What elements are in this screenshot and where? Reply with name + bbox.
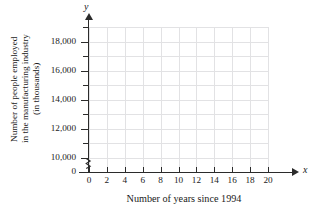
y-axis-tick-label: 14,000 (36, 94, 78, 104)
x-axis-tick (89, 167, 90, 172)
y-axis-tick-label-text: 14,000 (36, 94, 76, 104)
x-axis-tick (196, 167, 197, 172)
y-axis-tick-label: 10,000 (36, 152, 78, 162)
gridline-horizontal (89, 71, 268, 72)
y-axis-origin-label-text: 0 (36, 166, 76, 176)
x-axis-arrow-icon (292, 168, 299, 176)
y-axis-tick-label-text: 10,000 (36, 152, 76, 162)
y-axis-tick-minor (83, 56, 89, 57)
gridline-horizontal (89, 56, 268, 57)
y-axis-tick-minor (83, 114, 89, 115)
y-axis-tick-minor (83, 85, 89, 86)
x-axis-tick (250, 167, 251, 172)
x-axis-tick (125, 167, 126, 172)
y-axis-tick-label: 12,000 (36, 123, 78, 133)
y-axis-origin-label: 0 (36, 166, 78, 176)
gridline-horizontal (89, 114, 268, 115)
x-axis-line (79, 172, 293, 173)
x-axis-tick (268, 167, 269, 172)
gridline-horizontal (89, 100, 268, 101)
y-axis-tick-label-text: 16,000 (36, 65, 76, 75)
gridline-horizontal (89, 85, 268, 86)
plot-area (89, 27, 268, 172)
y-axis-tick-label-text: 18,000 (36, 36, 76, 46)
gridline-vertical (268, 27, 269, 172)
y-axis-tick-major (81, 42, 89, 43)
x-axis-tick (161, 167, 162, 172)
y-axis-tick-minor (83, 143, 89, 144)
x-axis-tick (179, 167, 180, 172)
x-axis-tick (143, 167, 144, 172)
x-axis-symbol: x (303, 164, 307, 175)
y-axis-tick-major (81, 71, 89, 72)
gridline-horizontal (89, 158, 268, 159)
x-axis-tick (107, 167, 108, 172)
y-axis-arrow-icon (85, 13, 93, 20)
y-axis-title-line-1: Number of people employed (10, 0, 19, 178)
y-axis-tick-label-text: 12,000 (36, 123, 76, 133)
y-axis-tick-minor (83, 172, 89, 173)
y-axis-tick-minor (83, 27, 89, 28)
gridline-horizontal (89, 42, 268, 43)
gridline-horizontal (89, 143, 268, 144)
x-axis-tick-label: 20 (256, 175, 280, 185)
x-axis-tick (232, 167, 233, 172)
chart-figure: Number of people employed in the manufac… (0, 0, 322, 220)
y-axis-tick-label: 18,000 (36, 36, 78, 46)
y-axis-title-line-2: in the manufacturing industry (21, 0, 30, 178)
y-axis-symbol: y (84, 1, 88, 12)
y-axis-tick-major (81, 158, 89, 159)
x-axis-tick (214, 167, 215, 172)
gridline-horizontal (89, 27, 268, 28)
y-axis-tick-label: 16,000 (36, 65, 78, 75)
x-axis-title: Number of years since 1994 (89, 193, 279, 204)
y-axis-tick-major (81, 129, 89, 130)
y-axis-tick-major (81, 100, 89, 101)
gridline-horizontal (89, 129, 268, 130)
